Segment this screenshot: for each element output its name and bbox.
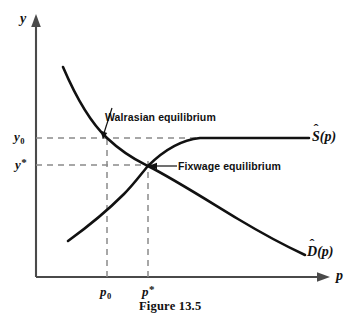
annotation-walrasian-equilibrium: Walrasian equilibrium bbox=[105, 112, 216, 123]
x-tick-label-p0: p0 bbox=[100, 285, 111, 298]
demand-curve-label-suffix: (p) bbox=[317, 244, 333, 259]
y-tick-y0-subscript: 0 bbox=[20, 136, 24, 146]
demand-curve-hat-letter: D bbox=[307, 245, 317, 259]
x-tick-p0-subscript: 0 bbox=[107, 291, 111, 301]
x-axis-label: p bbox=[336, 269, 343, 283]
supply-curve-label: S(p) bbox=[312, 130, 336, 144]
y-tick-label-y0: y0 bbox=[14, 130, 24, 143]
axes-group bbox=[31, 14, 330, 282]
x-axis-arrowhead bbox=[317, 272, 330, 282]
figure-caption: Figure 13.5 bbox=[139, 300, 201, 313]
x-tick-pstar-superscript: * bbox=[149, 283, 155, 295]
x-tick-pstar-base: p bbox=[142, 284, 149, 299]
y-tick-label-ystar: y* bbox=[15, 158, 26, 171]
y-axis-label: y bbox=[20, 12, 26, 26]
y-tick-ystar-superscript: * bbox=[21, 156, 27, 168]
x-tick-p0-base: p bbox=[100, 284, 107, 299]
annotation-fixwage-equilibrium: Fixwage equilibrium bbox=[178, 161, 281, 172]
y-tick-ystar-base: y bbox=[15, 157, 21, 172]
figure-13-5: y p y0 y* p0 p* S(p) D(p) Walrasian equi… bbox=[0, 0, 354, 320]
demand-curve-label: D(p) bbox=[307, 245, 333, 259]
guide-lines-group bbox=[36, 134, 206, 277]
supply-curve-hat-letter: S bbox=[312, 130, 320, 144]
y-axis-arrowhead bbox=[31, 14, 41, 27]
figure-drawing-canvas bbox=[0, 0, 354, 320]
supply-curve-label-suffix: (p) bbox=[320, 129, 336, 144]
x-tick-label-pstar: p* bbox=[142, 285, 154, 298]
y-tick-y0-base: y bbox=[14, 129, 20, 144]
